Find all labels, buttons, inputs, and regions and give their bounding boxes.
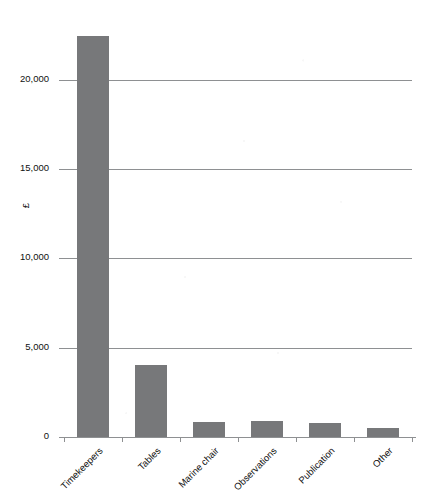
- bar: [367, 428, 399, 437]
- gridline: [64, 80, 412, 81]
- y-tick-mark: [59, 80, 64, 81]
- gridline: [64, 258, 412, 259]
- x-tick-mark-origin: [64, 437, 65, 442]
- bar-chart: £ 05,00010,00015,00020,000 TimekeepersTa…: [0, 0, 421, 504]
- bar: [193, 422, 225, 437]
- bar: [309, 423, 341, 437]
- y-tick-label: 0: [1, 431, 49, 441]
- x-tick-mark: [296, 437, 297, 442]
- y-tick-mark: [59, 258, 64, 259]
- y-tick-mark: [59, 348, 64, 349]
- y-tick-mark: [59, 169, 64, 170]
- x-tick-mark: [180, 437, 181, 442]
- x-category-label: Publication: [287, 445, 337, 495]
- y-tick-label: 10,000: [1, 252, 49, 262]
- y-axis-title: £: [20, 195, 31, 217]
- x-tick-mark: [412, 437, 413, 442]
- bar: [77, 36, 109, 437]
- x-tick-mark: [238, 437, 239, 442]
- x-category-label: Timekeepers: [55, 445, 105, 495]
- x-axis-line: [64, 437, 416, 438]
- y-tick-label: 15,000: [1, 163, 49, 173]
- x-category-label: Observations: [229, 445, 279, 495]
- gridline: [64, 348, 412, 349]
- x-category-label: Other: [345, 445, 395, 495]
- plot-area: [64, 20, 412, 437]
- x-category-label: Marine chair: [171, 445, 221, 495]
- gridline: [64, 169, 412, 170]
- x-tick-mark: [354, 437, 355, 442]
- bar: [251, 421, 283, 437]
- y-tick-label: 20,000: [1, 74, 49, 84]
- x-category-label: Tables: [113, 445, 163, 495]
- bar: [135, 365, 167, 437]
- y-tick-label: 5,000: [1, 342, 49, 352]
- x-tick-mark: [122, 437, 123, 442]
